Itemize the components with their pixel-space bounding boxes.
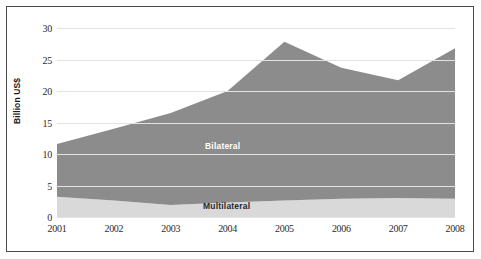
gridline-20 bbox=[57, 91, 455, 92]
gridline-30 bbox=[57, 28, 455, 29]
x-tick-2002: 2002 bbox=[88, 223, 140, 234]
x-tick-2001: 2001 bbox=[31, 223, 83, 234]
gridline-5 bbox=[57, 186, 455, 187]
x-tick-2005: 2005 bbox=[258, 223, 310, 234]
y-tick-30: 30 bbox=[6, 23, 52, 34]
y-tick-20: 20 bbox=[6, 86, 52, 97]
gridline-25 bbox=[57, 60, 455, 61]
y-tick-15: 15 bbox=[6, 117, 52, 128]
x-tick-2004: 2004 bbox=[202, 223, 254, 234]
x-tick-2008: 2008 bbox=[429, 223, 481, 234]
y-tick-0: 0 bbox=[6, 212, 52, 223]
x-axis-tick-labels: 20012002200320042005200620072008 bbox=[57, 223, 455, 239]
x-tick-2007: 2007 bbox=[372, 223, 424, 234]
y-axis-tick-labels: 051015202530 bbox=[0, 28, 52, 217]
plot-area bbox=[57, 28, 455, 217]
y-tick-10: 10 bbox=[6, 149, 52, 160]
gridline-10 bbox=[57, 154, 455, 155]
x-tick-2003: 2003 bbox=[145, 223, 197, 234]
chart-figure: Billion US$ 051015202530 Bilateral Multi… bbox=[0, 0, 481, 259]
y-tick-25: 25 bbox=[6, 54, 52, 65]
gridline-0 bbox=[57, 217, 455, 218]
y-tick-5: 5 bbox=[6, 180, 52, 191]
x-tick-2006: 2006 bbox=[315, 223, 367, 234]
series-label-multilateral: Multilateral bbox=[203, 201, 250, 211]
gridline-15 bbox=[57, 123, 455, 124]
series-label-bilateral: Bilateral bbox=[205, 141, 240, 151]
